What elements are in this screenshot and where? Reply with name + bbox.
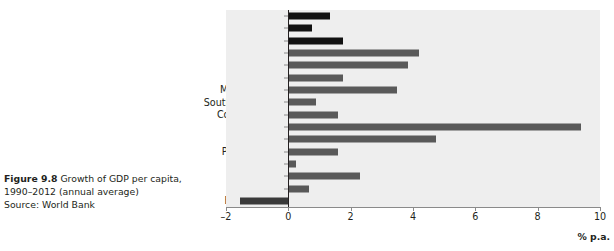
- bar-row: [226, 72, 600, 84]
- bar: [288, 25, 311, 32]
- bar: [288, 123, 581, 130]
- bar: [288, 111, 338, 118]
- bar: [288, 160, 296, 167]
- bar-row: [226, 96, 600, 108]
- x-tick-label: 4: [410, 212, 416, 222]
- bar-row: [226, 84, 600, 96]
- bar-row: [226, 195, 600, 207]
- bar-row: [226, 145, 600, 157]
- plot-area: [226, 10, 600, 207]
- bar: [288, 62, 408, 69]
- bar-series: [226, 10, 600, 207]
- bar: [288, 13, 330, 20]
- bar-row: [226, 158, 600, 170]
- x-tick-label: 0: [285, 212, 291, 222]
- bar: [288, 50, 419, 57]
- bar-row: [226, 22, 600, 34]
- bar-row: [226, 47, 600, 59]
- bar: [288, 74, 343, 81]
- x-axis-ticks: –20246810: [226, 207, 600, 229]
- x-axis-title: % p.a.: [577, 231, 610, 242]
- bar: [240, 197, 288, 204]
- bar: [288, 173, 360, 180]
- bar-row: [226, 182, 600, 194]
- bar: [288, 99, 316, 106]
- bar-row: [226, 121, 600, 133]
- bar: [288, 136, 436, 143]
- bar-row: [226, 170, 600, 182]
- x-tick-label: 6: [472, 212, 478, 222]
- bar-row: [226, 109, 600, 121]
- bar: [288, 185, 308, 192]
- bar-chart: USAJapanUKKoreaChileBrazilMalaysiaSouth …: [0, 0, 614, 251]
- zero-axis-line: [288, 10, 289, 207]
- x-tick-label: 8: [535, 212, 541, 222]
- bar-row: [226, 35, 600, 47]
- bar-row: [226, 59, 600, 71]
- x-tick-label: 10: [594, 212, 606, 222]
- bar: [288, 37, 343, 44]
- x-tick-label: 2: [348, 212, 354, 222]
- bar-row: [226, 10, 600, 22]
- bar-row: [226, 133, 600, 145]
- bar: [288, 87, 397, 94]
- bar: [288, 148, 338, 155]
- x-tick-label: –2: [221, 212, 232, 222]
